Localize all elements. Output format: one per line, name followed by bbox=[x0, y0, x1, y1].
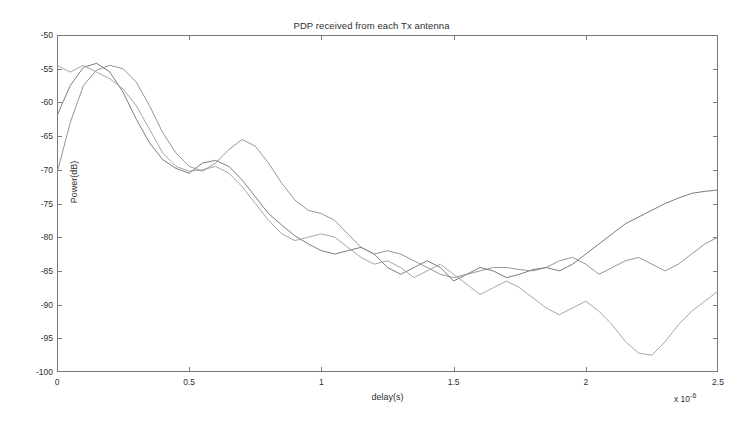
series-line-2 bbox=[57, 65, 718, 277]
y-tick-label: -75 bbox=[41, 199, 53, 209]
x-axis-exponent: x 10-6 bbox=[674, 392, 696, 404]
chart-title: PDP received from each Tx antenna bbox=[0, 20, 743, 31]
plot-area: Power(dB) -50-55-60-65-70-75-80-85-90-95… bbox=[57, 35, 718, 372]
x-tick-label: 0 bbox=[55, 377, 60, 387]
x-tick-label: 0.5 bbox=[183, 377, 195, 387]
y-tick-label: -85 bbox=[41, 266, 53, 276]
x-exponent-value: -6 bbox=[690, 392, 696, 399]
x-tick-label: 1 bbox=[319, 377, 324, 387]
axis-frame bbox=[58, 36, 718, 372]
x-tick-label: 2.5 bbox=[712, 377, 724, 387]
y-tick-label: -55 bbox=[41, 64, 53, 74]
y-tick-label: -100 bbox=[36, 367, 53, 377]
y-tick-label: -80 bbox=[41, 232, 53, 242]
series-line-1 bbox=[57, 63, 718, 281]
x-tick-label: 2 bbox=[583, 377, 588, 387]
series-line-3 bbox=[57, 65, 718, 355]
series-lines bbox=[57, 63, 718, 355]
y-tick-label: -90 bbox=[41, 300, 53, 310]
figure-canvas: PDP received from each Tx antenna Power(… bbox=[0, 0, 743, 423]
x-exponent-prefix: x 10 bbox=[674, 394, 690, 404]
y-tick-label: -95 bbox=[41, 333, 53, 343]
x-axis-label: delay(s) bbox=[57, 392, 718, 402]
y-tick-label: -65 bbox=[41, 131, 53, 141]
x-tick-label: 1.5 bbox=[448, 377, 460, 387]
y-tick-label: -50 bbox=[41, 30, 53, 40]
axis-box bbox=[58, 36, 718, 372]
tick-marks bbox=[57, 35, 718, 372]
chart-plot-svg bbox=[57, 35, 718, 372]
y-tick-label: -60 bbox=[41, 97, 53, 107]
y-tick-label: -70 bbox=[41, 165, 53, 175]
